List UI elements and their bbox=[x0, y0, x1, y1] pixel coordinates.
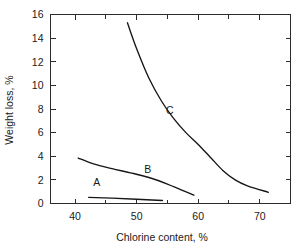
x-axis-title: Chlorine content, % bbox=[116, 231, 208, 243]
y-tick-label: 2 bbox=[38, 174, 44, 186]
curve-label-c: C bbox=[166, 104, 174, 116]
y-tick-label: 0 bbox=[38, 197, 44, 209]
y-tick-label: 16 bbox=[32, 8, 44, 20]
curve-label-a: A bbox=[93, 176, 100, 188]
x-tick-label: 60 bbox=[192, 210, 204, 222]
x-tick-label: 70 bbox=[254, 210, 266, 222]
y-tick-label: 12 bbox=[32, 56, 44, 68]
y-tick-label: 10 bbox=[32, 79, 44, 91]
x-tick-label: 50 bbox=[131, 210, 143, 222]
curve-label-b: B bbox=[144, 163, 151, 175]
y-tick-label: 6 bbox=[38, 126, 44, 138]
chart-figure: 40506070 0246810121416 ABC Chlorine cont… bbox=[0, 0, 303, 250]
y-tick-label: 8 bbox=[38, 103, 44, 115]
weight-loss-vs-chlorine-line-chart: 40506070 0246810121416 ABC Chlorine cont… bbox=[0, 0, 303, 250]
y-axis-title: Weight loss, % bbox=[3, 75, 15, 144]
y-tick-label: 4 bbox=[38, 150, 44, 162]
y-tick-label: 14 bbox=[32, 32, 44, 44]
x-tick-label: 40 bbox=[69, 210, 81, 222]
